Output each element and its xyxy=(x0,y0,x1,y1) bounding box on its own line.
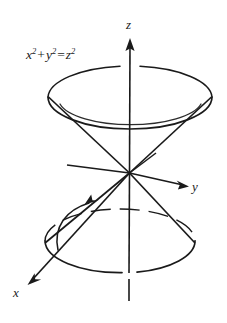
top-ellipse-back-arc-left xyxy=(48,66,120,97)
lower-cone-slant-right xyxy=(130,173,196,243)
bottom-ellipse-front-arc-right xyxy=(137,241,195,272)
z-axis-lower-line xyxy=(129,173,130,273)
z-axis-label: z xyxy=(126,18,131,31)
y-axis-arrowhead-icon xyxy=(177,180,189,189)
negative-x-ray xyxy=(130,153,157,173)
equation-plus-sign: + xyxy=(36,47,46,62)
x-axis-label: x xyxy=(13,286,19,299)
upper-cone-slant-left xyxy=(49,97,130,173)
negative-y-ray xyxy=(67,165,130,173)
top-ellipse-back-arc-right xyxy=(140,66,212,97)
equation-z-exponent: 2 xyxy=(71,46,75,56)
y-axis-label: y xyxy=(192,180,198,193)
equation-label: x2+y2=z2 xyxy=(26,48,75,62)
x-axis-line xyxy=(33,173,130,279)
z-axis-upper-line xyxy=(130,44,131,173)
x-axis-arrowhead-icon xyxy=(28,273,42,285)
y-axis-line xyxy=(130,173,184,185)
equation-equals-sign: = xyxy=(56,47,66,62)
upper-cone-slant-right xyxy=(130,97,212,173)
cone-figure: x2+y2=z2 z y x xyxy=(0,0,227,323)
